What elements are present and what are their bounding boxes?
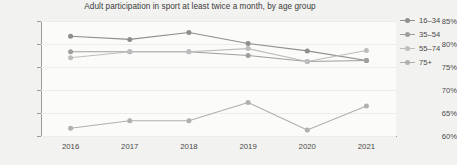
legend-marker-icon: [400, 30, 415, 39]
legend-item-35-54[interactable]: 35–54: [400, 28, 457, 41]
x-tick-label: 2018: [169, 142, 209, 151]
legend-marker-icon: [400, 58, 415, 67]
gridline: [41, 90, 396, 91]
y-axis-line: [41, 21, 42, 136]
x-tick-label: 2021: [346, 142, 386, 151]
y-tick-label: 60%: [423, 132, 457, 141]
y-tick-mark: [37, 67, 41, 68]
chart-legend: 16–3435–5455–7475+: [400, 14, 457, 70]
line-chart: Adult participation in sport at least tw…: [0, 0, 457, 165]
legend-label: 75+: [415, 58, 432, 67]
x-tick-label: 2020: [287, 142, 327, 151]
legend-item-55-74[interactable]: 55–74: [400, 42, 457, 55]
y-tick-label: 70%: [423, 86, 457, 95]
y-tick-label: 65%: [423, 109, 457, 118]
gridline: [41, 44, 396, 45]
legend-marker-icon: [400, 44, 415, 53]
gridline: [41, 136, 396, 137]
x-tick-label: 2016: [51, 142, 91, 151]
legend-item-75-[interactable]: 75+: [400, 56, 457, 69]
chart-title: Adult participation in sport at least tw…: [0, 2, 400, 11]
y-tick-mark: [37, 113, 41, 114]
legend-marker-icon: [400, 16, 415, 25]
legend-label: 55–74: [415, 44, 440, 53]
gridline: [41, 113, 396, 114]
x-tick-label: 2017: [110, 142, 150, 151]
legend-label: 16–34: [415, 16, 440, 25]
y-tick-mark: [37, 44, 41, 45]
y-tick-mark: [37, 21, 41, 22]
y-tick-mark: [37, 136, 41, 137]
y-tick-mark: [37, 90, 41, 91]
gridline: [41, 67, 396, 68]
legend-item-16-34[interactable]: 16–34: [400, 14, 457, 27]
x-tick-label: 2019: [228, 142, 268, 151]
plot-area: [41, 21, 396, 136]
gridline: [41, 21, 396, 22]
legend-label: 35–54: [415, 30, 440, 39]
